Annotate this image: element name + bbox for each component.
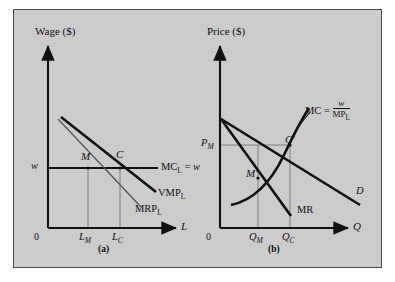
panel-b-point-mprime-label: M′ — [246, 168, 258, 179]
panel-b-caption: (b) — [268, 245, 280, 255]
panel-a-caption: (a) — [98, 245, 109, 255]
mc-eq: = — [321, 105, 332, 116]
panel-b-xtick-qc: QC — [282, 232, 295, 245]
mrpl-sub: L — [157, 208, 162, 217]
panel-a-origin-label: 0 — [34, 232, 39, 242]
panel-b-curve-d — [221, 119, 360, 205]
panel-a-x-axis-title: L — [181, 221, 187, 232]
mrpl-main: MRP — [135, 203, 157, 214]
panel-a-label-mcl: MCL = w — [161, 162, 200, 175]
mc-den-main: MP — [333, 109, 346, 119]
vmpl-sub: L — [181, 192, 186, 201]
panel-b-curve-mc — [231, 108, 309, 205]
panel-b-guides — [220, 145, 290, 228]
panel-b-y-axis-title: Price ($) — [207, 26, 245, 37]
pm-sub: M — [207, 142, 213, 151]
panel-a-curve-vmpl — [61, 117, 156, 192]
panel-b-x-axis-title: Q — [353, 221, 361, 232]
panel-a-label-vmpl: VMPL — [158, 188, 185, 201]
vmpl-main: VMP — [158, 187, 181, 198]
mcl-main: MC — [161, 161, 177, 172]
qc-main: Q — [282, 231, 290, 242]
panel-a-point-m — [86, 166, 89, 169]
panel-a-wage-tick-label: w — [31, 161, 38, 172]
panel-a-y-axis-title: Wage ($) — [35, 26, 75, 37]
mc-denominator: MPL — [333, 108, 351, 123]
panel-a-point-m-label: M — [81, 151, 90, 162]
panel-b-label-mc: MC = wMPL — [305, 100, 350, 124]
qm-main: Q — [249, 231, 257, 242]
panel-b-xtick-qm: QM — [249, 232, 263, 245]
panel-b-price-tick-label: PM — [201, 138, 214, 151]
lm-sub: M — [85, 236, 91, 245]
panel-a-curve-mrpl — [58, 119, 141, 207]
panel-a-label-mrpl: MRPL — [135, 204, 162, 217]
mc-numerator: w — [333, 99, 351, 108]
panel-a-point-c-label: C — [116, 149, 123, 160]
panel-a-point-c — [118, 166, 121, 169]
panel-a-xtick-lm: LM — [79, 232, 91, 245]
diagram-canvas — [0, 0, 395, 282]
mc-den-sub: L — [346, 113, 351, 122]
panel-a-xtick-lc: LC — [112, 232, 123, 245]
qm-sub: M — [257, 236, 263, 245]
mcl-w: w — [193, 161, 200, 172]
qc-sub: C — [290, 236, 295, 245]
panel-b-label-mr: MR — [297, 205, 313, 216]
lc-sub: C — [118, 236, 123, 245]
panel-b-label-d: D — [356, 186, 364, 197]
panel-b-point-cprime-label: C′ — [285, 134, 295, 145]
mc-main: MC — [305, 105, 321, 116]
mcl-eq: = — [182, 161, 193, 172]
figure-root: Wage ($) 0 w L M C MCL = w VMPL MRPL LM … — [0, 0, 395, 282]
mc-fraction: wMPL — [333, 99, 351, 123]
panel-b-origin-label: 0 — [206, 232, 211, 242]
panel-a-guides — [88, 168, 120, 228]
